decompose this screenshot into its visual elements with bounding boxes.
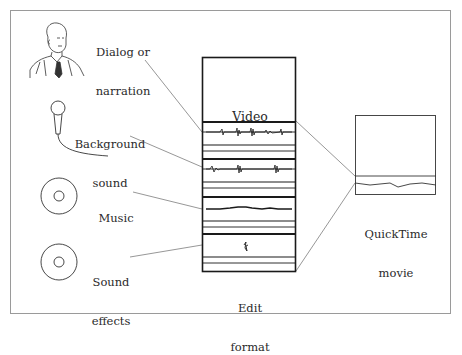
label-edit-format: Edit format xyxy=(222,276,278,355)
label-music: Music xyxy=(96,186,136,251)
waveform-music xyxy=(206,207,292,209)
label-quicktime: QuickTime movie xyxy=(350,202,442,306)
label-dialog-line1: Dialog or xyxy=(88,46,158,59)
label-effects: Sound effects xyxy=(88,250,134,354)
video-label: Video xyxy=(222,110,278,123)
label-effects-line1: Sound xyxy=(88,276,134,289)
label-music-line1: Music xyxy=(96,212,136,225)
quicktime-movie-box xyxy=(355,116,436,195)
label-background-line1: Background xyxy=(70,138,150,151)
edit-format-line2: format xyxy=(222,341,278,354)
edit-format-line1: Edit xyxy=(222,302,278,315)
label-video: Video xyxy=(222,84,278,149)
quicktime-line2: movie xyxy=(350,267,442,280)
label-dialog: Dialog or narration xyxy=(88,20,158,124)
label-effects-line2: effects xyxy=(88,315,134,328)
disc-icon-effects xyxy=(41,244,77,280)
waveform-effects xyxy=(244,242,248,251)
person-icon xyxy=(30,23,84,78)
label-dialog-line2: narration xyxy=(88,85,158,98)
quicktime-line1: QuickTime xyxy=(350,228,442,241)
